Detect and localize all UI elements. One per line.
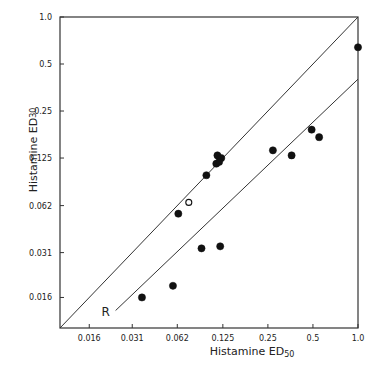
x-tick-label: 0.5 <box>307 334 320 343</box>
x-tick-label: 0.031 <box>121 334 144 343</box>
y-tick-label: 0.031 <box>29 249 52 258</box>
open-data-point <box>186 199 192 205</box>
filled-data-point <box>354 44 361 51</box>
x-tick-label: 0.016 <box>78 334 101 343</box>
y-tick-label: 0.062 <box>29 202 52 211</box>
x-axis-title: Histamine ED50 <box>210 345 295 359</box>
filled-data-point <box>175 210 182 217</box>
regression-line-label: R <box>101 305 109 319</box>
y-axis-title: Histamine ED30 <box>27 108 40 193</box>
y-tick-label: 0.5 <box>39 60 52 69</box>
filled-data-point <box>269 147 276 154</box>
regression-line <box>116 79 358 310</box>
x-axis-ticks: 0.0160.0310.0620.1250.250.51.0 <box>78 324 365 343</box>
filled-data-point <box>308 126 315 133</box>
filled-data-point <box>203 172 210 179</box>
x-tick-label: 0.062 <box>166 334 189 343</box>
filled-data-point <box>316 134 323 141</box>
filled-data-point <box>217 243 224 250</box>
x-tick-label: 1.0 <box>352 334 365 343</box>
scatter-chart: 0.0160.0310.0620.1250.250.51.0 0.0160.03… <box>0 0 382 373</box>
y-tick-label: 1.0 <box>39 13 52 22</box>
filled-data-point <box>198 245 205 252</box>
x-tick-label: 0.125 <box>211 334 234 343</box>
filled-data-point <box>288 152 295 159</box>
data-points <box>138 44 361 301</box>
x-tick-label: 0.25 <box>259 334 277 343</box>
filled-data-point <box>169 282 176 289</box>
filled-data-point <box>216 158 223 165</box>
y-tick-label: 0.016 <box>29 293 52 302</box>
filled-data-point <box>138 294 145 301</box>
